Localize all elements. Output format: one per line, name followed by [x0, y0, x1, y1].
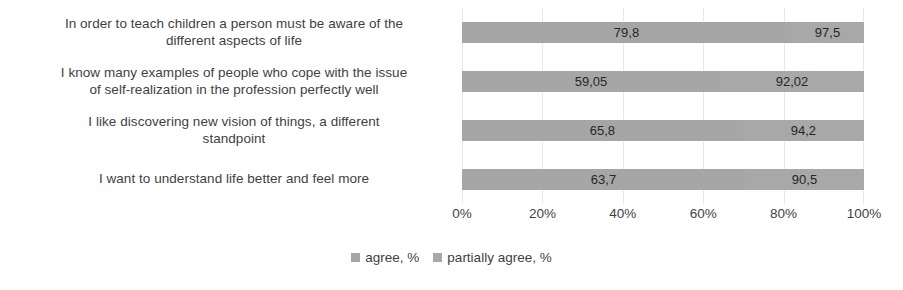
data-label-partially-agree: 92,02	[776, 74, 809, 89]
data-label-agree: 63,7	[591, 172, 616, 187]
legend-label: partially agree, %	[447, 250, 551, 265]
chart-container: In order to teach children a person must…	[0, 0, 903, 290]
category-axis-labels: In order to teach children a person must…	[14, 8, 454, 204]
bar-segment-agree[interactable]: 65,8	[462, 120, 743, 141]
x-tick-label: 0%	[432, 206, 492, 221]
x-tick-label: 20%	[512, 206, 572, 221]
legend-item[interactable]: partially agree, %	[433, 250, 551, 265]
bar-segment-partially-agree[interactable]: 90,5	[745, 169, 864, 190]
data-label-partially-agree: 97,5	[815, 25, 840, 40]
plot-area: 79,897,559,0592,0265,894,263,790,5	[462, 8, 864, 204]
category-label: In order to teach children a person must…	[14, 16, 454, 49]
bar-row[interactable]: 63,790,5	[462, 169, 864, 190]
x-axis: 0%20%40%60%80%100%	[462, 206, 864, 228]
bar-row[interactable]: 65,894,2	[462, 120, 864, 141]
bar-segment-agree[interactable]: 59,05	[462, 71, 720, 92]
data-label-partially-agree: 90,5	[792, 172, 817, 187]
x-tick-label: 80%	[754, 206, 814, 221]
legend-swatch-icon	[433, 253, 442, 262]
x-tick-label: 100%	[834, 206, 894, 221]
data-label-agree: 79,8	[614, 25, 639, 40]
bar-row[interactable]: 79,897,5	[462, 22, 864, 43]
data-label-agree: 59,05	[575, 74, 608, 89]
bar-row[interactable]: 59,0592,02	[462, 71, 864, 92]
x-tick-label: 60%	[673, 206, 733, 221]
legend-swatch-icon	[351, 253, 360, 262]
bar-segment-partially-agree[interactable]: 94,2	[743, 120, 864, 141]
chart-legend: agree, %partially agree, %	[0, 250, 903, 265]
bar-segment-partially-agree[interactable]: 92,02	[720, 71, 864, 92]
legend-label: agree, %	[365, 250, 419, 265]
bar-segment-partially-agree[interactable]: 97,5	[791, 22, 864, 43]
legend-item[interactable]: agree, %	[351, 250, 419, 265]
bar-segment-agree[interactable]: 79,8	[462, 22, 791, 43]
data-label-partially-agree: 94,2	[791, 123, 816, 138]
x-tick-label: 40%	[593, 206, 653, 221]
category-label: I know many examples of people who cope …	[14, 65, 454, 98]
category-label: I want to understand life better and fee…	[14, 171, 454, 188]
category-label: I like discovering new vision of things,…	[14, 114, 454, 147]
data-label-agree: 65,8	[590, 123, 615, 138]
bar-segment-agree[interactable]: 63,7	[462, 169, 745, 190]
